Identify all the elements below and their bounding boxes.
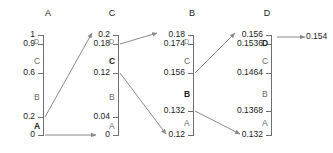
arrow-b0132-to-d0132 <box>195 111 240 134</box>
arrow-a02-to-c02 <box>45 33 92 117</box>
arrow-layer <box>0 0 333 153</box>
arrow-c012-to-b012 <box>120 73 166 134</box>
arrow-b0156-to-d0156 <box>195 33 235 73</box>
arrow-c018-to-b018 <box>120 33 157 44</box>
result-value: 0.154 <box>306 32 333 41</box>
diagram-canvas: ACBD 10.90.60.20DCBA0.20.180.120.040DCBA… <box>0 0 333 153</box>
